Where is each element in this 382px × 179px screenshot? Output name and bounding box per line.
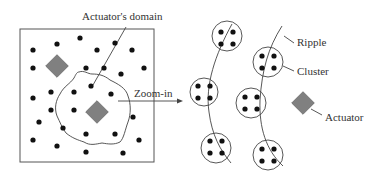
cluster bbox=[253, 47, 283, 77]
actuator-leader-line bbox=[311, 109, 322, 115]
actuator-label: Actuator bbox=[325, 111, 364, 123]
actuator-network-diagram: Actuator's domain Zoom-in bbox=[0, 0, 382, 179]
sensor-nodes bbox=[30, 35, 146, 155]
cluster-label: Cluster bbox=[297, 65, 329, 77]
actuator-icon bbox=[86, 101, 109, 124]
cluster-leader-line bbox=[283, 66, 294, 71]
ripple-label: Ripple bbox=[297, 36, 326, 48]
domain-label: Actuator's domain bbox=[82, 10, 163, 22]
actuator-icon bbox=[292, 92, 315, 115]
zoom-label: Zoom-in bbox=[134, 87, 173, 99]
cluster bbox=[236, 88, 266, 118]
cluster bbox=[212, 21, 242, 51]
arrow-head-icon bbox=[177, 99, 183, 104]
ripple-leader-line bbox=[284, 36, 294, 43]
actuator-icon bbox=[46, 55, 69, 78]
cluster bbox=[190, 78, 218, 106]
